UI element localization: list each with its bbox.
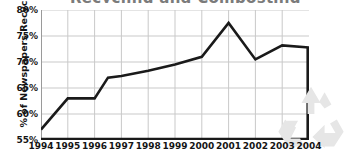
x-tick-label: 1998: [136, 141, 161, 151]
x-tick-label: 2004: [296, 141, 321, 151]
x-tick-label: 1997: [109, 141, 134, 151]
x-tick-label: 1999: [162, 141, 187, 151]
line-chart-svg: [41, 10, 309, 140]
y-tick-label: 70%: [6, 58, 38, 67]
x-tick-label: 1994: [28, 141, 53, 151]
x-tick-label: 2003: [270, 141, 295, 151]
x-tick-label: 1996: [82, 141, 107, 151]
x-axis-tick-labels: 1994199519961997199819992000200120022003…: [41, 141, 309, 157]
x-tick-label: 2001: [216, 141, 241, 151]
chart-title: Recycling and Composting: [70, 0, 320, 3]
x-tick-label: 2002: [243, 141, 268, 151]
vertical-gridlines: [41, 10, 309, 140]
y-tick-label: 80%: [6, 6, 38, 15]
x-tick-label: 1995: [55, 141, 80, 151]
y-tick-label: 75%: [6, 32, 38, 41]
y-tick-label: 60%: [6, 110, 38, 119]
y-axis-tick-labels: 55%60%65%70%75%80%: [0, 10, 38, 140]
plot-area: [41, 10, 309, 140]
y-tick-label: 65%: [6, 84, 38, 93]
x-tick-label: 2000: [189, 141, 214, 151]
plot-area-wrapper: [41, 10, 309, 140]
